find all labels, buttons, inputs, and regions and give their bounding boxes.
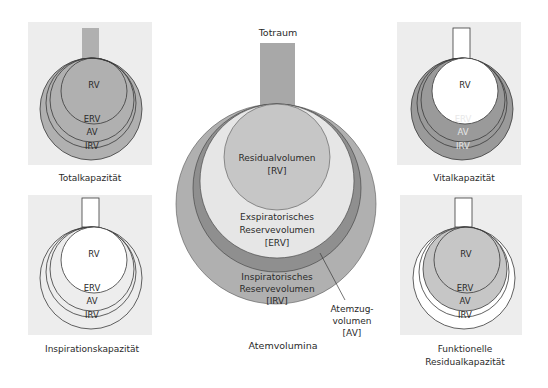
irv-label: IRV: [456, 141, 470, 151]
panel-vital-capacity: RV ERV AV IRV Vitalkapazität: [397, 22, 521, 183]
erv-label-line2: Reservevolumen: [239, 225, 314, 235]
irv-label: IRV: [458, 310, 472, 320]
panel-title-line2: Residualkapazität: [425, 357, 505, 367]
av-label-line3: [AV]: [343, 328, 362, 338]
dead-space-tube: [82, 198, 99, 227]
dead-space-tube: [453, 28, 470, 59]
av-label: AV: [457, 127, 468, 137]
erv-label: ERV: [455, 114, 472, 124]
erv-label-line3: [ERV]: [265, 238, 290, 248]
rv-label: RV: [88, 80, 99, 90]
erv-label-line1: Exspiratorisches: [240, 212, 314, 222]
irv-label-line1: Inspiratorisches: [241, 272, 313, 282]
panel-inspiratory-capacity: RV ERV AV IRV Inspirationskapazität: [28, 195, 152, 354]
rv-label: RV: [88, 249, 99, 259]
lung-volumes-diagram: RV ERV AV IRV Totalkapazität RV ERV AV I…: [0, 0, 548, 388]
erv-label: ERV: [84, 114, 101, 124]
av-label: AV: [86, 127, 97, 137]
rv-label-line2: [RV]: [268, 166, 287, 176]
panel-title: Totalkapazität: [58, 173, 122, 183]
irv-label-line2: Reservevolumen: [239, 284, 314, 294]
panel-total-capacity: RV ERV AV IRV Totalkapazität: [28, 22, 152, 183]
rv-label: RV: [460, 249, 471, 259]
dead-space-label: Totraum: [258, 27, 298, 38]
av-label: AV: [459, 296, 470, 306]
dead-space-tube: [260, 43, 295, 105]
irv-label: IRV: [85, 310, 99, 320]
dead-space-tube: [82, 28, 99, 59]
panel-title: Inspirationskapazität: [45, 344, 139, 354]
rv-label: RV: [459, 80, 470, 90]
erv-label: ERV: [457, 283, 474, 293]
av-label: AV: [86, 296, 97, 306]
irv-label-line3: [IRV]: [266, 296, 288, 306]
panel-breathing-volumes: Totraum Residualvolumen [RV] Exspiratori…: [176, 27, 376, 351]
panel-title: Atemvolumina: [249, 340, 318, 351]
erv-label: ERV: [84, 283, 101, 293]
dead-space-tube: [455, 198, 472, 227]
irv-label: IRV: [85, 141, 99, 151]
rv-label-line1: Residualvolumen: [238, 153, 315, 163]
panel-title: Vitalkapazität: [433, 173, 495, 183]
av-label-line1: Atemzug-: [330, 304, 373, 314]
av-label-line2: volumen: [332, 316, 371, 326]
panel-functional-residual-capacity: RV ERV AV IRV Funktionelle Residualkapaz…: [400, 195, 522, 367]
panel-title-line1: Funktionelle: [438, 344, 493, 354]
